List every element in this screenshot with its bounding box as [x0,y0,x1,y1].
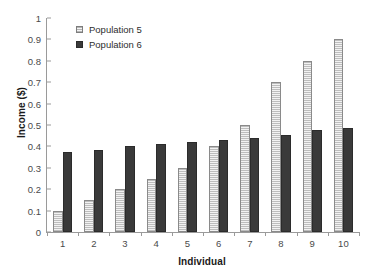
y-axis-tick-label: 0.5 [28,120,47,131]
x-axis-tick-label: 10 [338,238,349,249]
y-axis-tick-mark [47,125,51,126]
bar-group [53,18,72,232]
x-axis-tick-mark [172,232,173,236]
x-axis-tick-mark [328,232,329,236]
bar-population-5 [334,39,344,232]
bar-population-5 [115,189,125,232]
y-axis-tick-mark [47,39,51,40]
y-axis-tick-label: 0.7 [28,77,47,88]
bar-population-5 [53,211,63,232]
bar-population-6 [312,130,322,232]
x-axis-tick-label: 4 [154,238,159,249]
x-axis-tick-mark [47,232,48,236]
y-axis-tick-label: 1 [36,13,47,24]
x-axis-tick-mark [359,232,360,236]
x-axis-tick-mark [203,232,204,236]
bar-population-6 [125,146,135,232]
y-axis-tick-mark [47,103,51,104]
legend-item: Population 5 [76,22,142,37]
bar-population-6 [187,142,197,232]
legend-swatch-icon [76,41,83,48]
y-axis-tick-label: 0.6 [28,98,47,109]
x-axis-tick-label: 2 [91,238,96,249]
y-axis-tick-label: 0.8 [28,55,47,66]
legend-label: Population 6 [89,39,142,50]
y-axis-tick-mark [47,210,51,211]
x-axis-tick-label: 9 [310,238,315,249]
y-axis-tick-mark [47,146,51,147]
y-axis-tick-label: 0 [36,227,47,238]
bar-group [303,18,322,232]
bar-population-5 [178,168,188,232]
y-axis-tick-mark [47,167,51,168]
bar-population-5 [209,146,219,232]
bar-population-6 [281,135,291,232]
bar-group [209,18,228,232]
y-axis-title: Income ($) [16,53,27,173]
bar-population-5 [84,200,94,232]
bar-population-6 [250,138,260,232]
bar-population-5 [271,82,281,232]
bar-population-5 [147,179,157,233]
bar-group [271,18,290,232]
x-axis-tick-mark [234,232,235,236]
bar-group [178,18,197,232]
y-axis-tick-label: 0.3 [28,162,47,173]
x-axis-tick-mark [78,232,79,236]
x-axis-tick-mark [141,232,142,236]
bar-population-6 [219,140,229,232]
x-axis-title: Individual [46,256,358,267]
bar-group [240,18,259,232]
legend-label: Population 5 [89,24,142,35]
x-axis-tick-mark [265,232,266,236]
y-axis-tick-mark [47,189,51,190]
bar-chart: Income ($) 00.10.20.30.40.50.60.70.80.91… [0,0,365,278]
y-axis-tick-mark [47,18,51,19]
x-axis-tick-label: 1 [60,238,65,249]
bar-group [334,18,353,232]
y-axis-tick-label: 0.1 [28,205,47,216]
bar-population-6 [343,128,353,232]
bar-population-6 [156,144,166,232]
bar-population-6 [63,152,73,232]
bar-population-5 [303,61,313,232]
x-axis-tick-label: 8 [278,238,283,249]
y-axis-tick-label: 0.9 [28,34,47,45]
bar-population-6 [94,150,104,232]
y-axis-tick-label: 0.4 [28,141,47,152]
legend-swatch-icon [76,26,83,33]
legend-item: Population 6 [76,37,142,52]
bar-group [147,18,166,232]
x-axis-tick-mark [109,232,110,236]
y-axis-tick-label: 0.2 [28,184,47,195]
x-axis-tick-label: 6 [216,238,221,249]
x-axis-tick-label: 7 [247,238,252,249]
chart-legend: Population 5Population 6 [76,22,142,52]
x-axis-tick-mark [297,232,298,236]
y-axis-tick-mark [47,60,51,61]
bar-population-5 [240,125,250,232]
x-axis-tick-label: 5 [185,238,190,249]
x-axis-tick-label: 3 [122,238,127,249]
y-axis-tick-mark [47,82,51,83]
